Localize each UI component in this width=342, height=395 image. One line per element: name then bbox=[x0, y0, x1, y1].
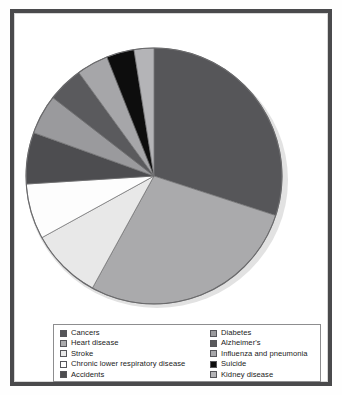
legend-column-left: CancersHeart diseaseStrokeChronic lower … bbox=[60, 328, 204, 380]
legend-item[interactable]: Chronic lower respiratory disease bbox=[60, 359, 204, 369]
legend-item-label: Cancers bbox=[71, 328, 100, 338]
legend-swatch-icon bbox=[210, 371, 217, 378]
legend-swatch-icon bbox=[60, 350, 67, 357]
legend-item-label: Stroke bbox=[71, 349, 93, 359]
legend-swatch-icon bbox=[60, 330, 67, 337]
legend-item[interactable]: Heart disease bbox=[60, 338, 204, 348]
legend-item[interactable]: Accidents bbox=[60, 370, 204, 380]
pie-chart-area bbox=[21, 20, 331, 308]
pie-slice-group bbox=[26, 48, 282, 304]
figure-container: CancersHeart diseaseStrokeChronic lower … bbox=[0, 0, 342, 395]
legend-item-label: Suicide bbox=[221, 359, 246, 369]
legend-item-label: Accidents bbox=[71, 370, 104, 380]
legend-item-label: Alzheimer's bbox=[221, 338, 261, 348]
pie-chart-svg bbox=[21, 20, 331, 308]
chart-frame-inner: CancersHeart diseaseStrokeChronic lower … bbox=[14, 13, 328, 382]
legend-item-label: Heart disease bbox=[71, 338, 119, 348]
legend-swatch-icon bbox=[60, 340, 67, 347]
legend-swatch-icon bbox=[210, 350, 217, 357]
chart-frame-border: CancersHeart diseaseStrokeChronic lower … bbox=[10, 9, 332, 386]
legend-column-right: DiabetesAlzheimer'sInfluenza and pneumon… bbox=[210, 328, 320, 380]
legend-swatch-icon bbox=[210, 340, 217, 347]
legend-item-label: Chronic lower respiratory disease bbox=[71, 359, 185, 369]
legend-swatch-icon bbox=[210, 330, 217, 337]
chart-legend: CancersHeart diseaseStrokeChronic lower … bbox=[53, 324, 321, 382]
legend-item[interactable]: Diabetes bbox=[210, 328, 320, 338]
legend-item[interactable]: Kidney disease bbox=[210, 370, 320, 380]
legend-item-label: Influenza and pneumonia bbox=[221, 349, 307, 359]
legend-swatch-icon bbox=[60, 361, 67, 368]
legend-item[interactable]: Cancers bbox=[60, 328, 204, 338]
legend-item[interactable]: Alzheimer's bbox=[210, 338, 320, 348]
legend-item-label: Kidney disease bbox=[221, 370, 273, 380]
legend-swatch-icon bbox=[210, 361, 217, 368]
legend-item-label: Diabetes bbox=[221, 328, 251, 338]
legend-swatch-icon bbox=[60, 371, 67, 378]
legend-item[interactable]: Stroke bbox=[60, 349, 204, 359]
legend-item[interactable]: Influenza and pneumonia bbox=[210, 349, 320, 359]
legend-item[interactable]: Suicide bbox=[210, 359, 320, 369]
